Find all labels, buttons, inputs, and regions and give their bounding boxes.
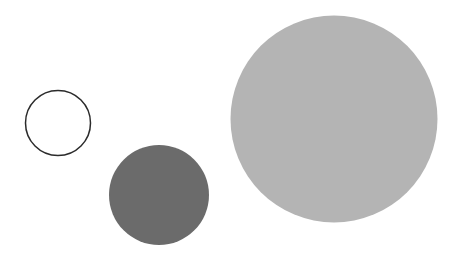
large-light-gray-circle — [231, 16, 438, 223]
figure-canvas — [0, 0, 454, 260]
circles-plot — [0, 0, 454, 260]
medium-dark-gray-circle — [109, 145, 209, 245]
